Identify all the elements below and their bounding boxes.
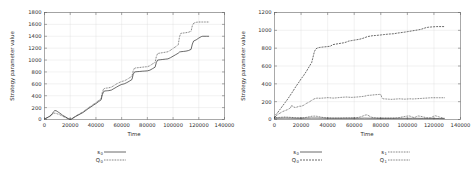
legend-subscript-s0: 0 xyxy=(100,151,103,156)
y-tick-label: 0 xyxy=(38,116,41,122)
x-tick-label: 80000 xyxy=(373,122,390,128)
x-tick-label: 100000 xyxy=(397,122,417,128)
x-tick-label: 140000 xyxy=(215,122,235,128)
left-tick-labels: 0200400600800100012001400160018000200004… xyxy=(28,9,234,127)
y-tick-label: 800 xyxy=(32,69,42,75)
x-tick-label: 80000 xyxy=(139,122,156,128)
x-tick-label: 140000 xyxy=(451,122,471,128)
y-tick-label: 1000 xyxy=(28,57,41,63)
series-line-s0 xyxy=(275,118,445,119)
left-yaxis-title: Strategy parameter value xyxy=(9,30,16,100)
left-legend: s0Q0 xyxy=(96,149,126,165)
two-panel-figure: 0200400600800100012001400160018000200004… xyxy=(0,0,472,174)
x-tick-label: 0 xyxy=(43,122,46,128)
y-tick-label: 400 xyxy=(32,93,42,99)
legend-label-Q0: Q xyxy=(96,157,100,163)
legend-subscript-Q0: 0 xyxy=(296,159,299,164)
right-series-group xyxy=(275,27,445,119)
right-tick-labels: 0200400600800100012000200004000060000800… xyxy=(258,9,470,127)
left-xaxis-title: Time xyxy=(126,131,141,137)
y-tick-label: 200 xyxy=(32,105,42,111)
y-tick-label: 1000 xyxy=(258,27,271,33)
x-tick-label: 100000 xyxy=(163,122,183,128)
right-chart-svg: 0200400600800100012000200004000060000800… xyxy=(236,0,472,174)
left-series-group xyxy=(45,22,210,119)
x-tick-label: 20000 xyxy=(293,122,310,128)
legend-subscript-s1: 1 xyxy=(384,151,387,156)
x-tick-label: 60000 xyxy=(346,122,363,128)
series-line-Q0 xyxy=(45,22,210,119)
series-line-Q0 xyxy=(275,27,445,118)
x-tick-label: 0 xyxy=(273,122,276,128)
left-ticks xyxy=(45,13,225,120)
x-tick-label: 20000 xyxy=(62,122,79,128)
legend-subscript-s0: 0 xyxy=(296,151,299,156)
x-tick-label: 120000 xyxy=(189,122,209,128)
x-tick-label: 120000 xyxy=(424,122,444,128)
left-grid xyxy=(45,13,225,120)
legend-subscript-Q0: 0 xyxy=(100,159,103,164)
right-yaxis-title: Strategy parameter value xyxy=(240,30,247,100)
y-tick-label: 800 xyxy=(262,45,272,51)
x-tick-label: 40000 xyxy=(319,122,336,128)
y-tick-label: 600 xyxy=(262,63,272,69)
y-tick-label: 1800 xyxy=(28,9,41,15)
chart-panel-right: 0200400600800100012000200004000060000800… xyxy=(236,0,472,174)
y-tick-label: 1200 xyxy=(28,45,41,51)
right-grid xyxy=(275,13,461,120)
y-tick-label: 1200 xyxy=(258,9,271,15)
y-tick-label: 600 xyxy=(32,81,42,87)
series-line-Q1 xyxy=(275,94,445,118)
y-tick-label: 0 xyxy=(268,116,271,122)
right-xaxis-title: Time xyxy=(359,131,374,137)
x-tick-label: 40000 xyxy=(88,122,105,128)
legend-label-Q1: Q xyxy=(380,157,384,163)
legend-label-Q0: Q xyxy=(292,157,296,163)
legend-subscript-Q1: 1 xyxy=(384,159,387,164)
series-line-s1 xyxy=(275,115,445,118)
x-tick-label: 60000 xyxy=(113,122,130,128)
y-tick-label: 1600 xyxy=(28,21,41,27)
left-chart-svg: 0200400600800100012001400160018000200004… xyxy=(0,0,236,174)
left-plot-frame xyxy=(45,13,225,120)
right-legend: s0s1Q0Q1 xyxy=(292,149,410,165)
y-tick-label: 200 xyxy=(262,99,272,105)
y-tick-label: 400 xyxy=(262,81,272,87)
series-line-s0 xyxy=(45,36,210,119)
chart-panel-left: 0200400600800100012001400160018000200004… xyxy=(0,0,236,174)
y-tick-label: 1400 xyxy=(28,33,41,39)
